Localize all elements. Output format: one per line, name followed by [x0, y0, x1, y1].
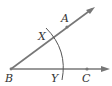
point-a-dot [65, 25, 68, 28]
point-b-dot [10, 68, 13, 71]
point-c-dot [85, 67, 88, 70]
label-y: Y [51, 73, 58, 84]
label-x: X [38, 31, 46, 42]
ray-ba [11, 9, 92, 69]
arrow-head-bc [101, 66, 110, 72]
angle-diagram: A X B Y C [0, 0, 112, 86]
label-a: A [61, 13, 69, 24]
label-c: C [82, 73, 90, 84]
label-b: B [5, 73, 13, 84]
